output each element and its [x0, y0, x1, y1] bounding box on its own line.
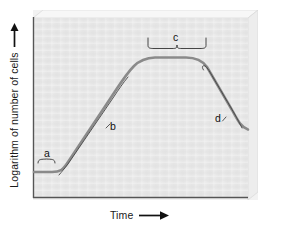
phase-label-b: b: [110, 120, 116, 132]
y-axis-title-text: Logarithm of number of cells: [8, 52, 20, 187]
x-axis-title-text: Time: [110, 209, 133, 221]
growth-curve-figure: a b c d Logarithm of number of cells Tim…: [0, 0, 301, 232]
annotation-a: [38, 159, 55, 163]
phase-label-a: a: [44, 147, 50, 159]
axis-lines: [33, 17, 248, 198]
phase-label-c: c: [173, 31, 178, 43]
chart-overlay: [0, 0, 301, 232]
phase-label-d: d: [215, 112, 221, 124]
arrow-up-icon: [9, 22, 20, 48]
arrow-right-icon: [138, 210, 170, 221]
x-axis-title: Time: [110, 209, 170, 221]
y-axis-title: Logarithm of number of cells: [3, 15, 25, 195]
